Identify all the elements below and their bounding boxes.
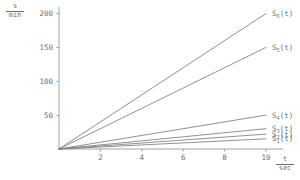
y-tick-label: 100 (39, 77, 53, 86)
y-tick-labels: 50 100 150 200 (39, 9, 53, 120)
y-tick-label: 200 (39, 9, 53, 18)
x-tick-label: 6 (181, 153, 186, 162)
series-label-s-3-t: S3(t) (272, 124, 293, 134)
y-axis-label-denominator: min (2, 12, 28, 19)
line-plot: 50 100 150 200 2 4 6 8 10 S1(t)S2(t)S3(t… (0, 0, 300, 180)
series-label-s-6-t: S6(t) (272, 9, 293, 19)
x-axis-label: t sec (272, 156, 298, 173)
y-tick-label: 150 (39, 43, 53, 52)
curve-group (59, 14, 266, 150)
series-label-s-5-t: S5(t) (272, 43, 293, 53)
x-tick-label: 2 (98, 153, 103, 162)
x-tick-label: 8 (222, 153, 227, 162)
chart-screenshot: 50 100 150 200 2 4 6 8 10 S1(t)S2(t)S3(t… (0, 0, 300, 180)
x-axis-label-denominator: sec (272, 165, 298, 172)
series-label-group: S1(t)S2(t)S3(t)S4(t)S5(t)S6(t) (272, 9, 293, 144)
series-label-s-4-t: S4(t) (272, 111, 293, 121)
y-axis-label: s min (2, 3, 28, 20)
x-tick-labels: 2 4 6 8 10 (98, 153, 271, 162)
curve-s-6-t (59, 14, 266, 150)
x-axis-label-numerator: t (272, 156, 298, 163)
x-tick-label: 10 (261, 153, 271, 162)
curve-s-2-t (59, 134, 266, 149)
curve-s-5-t (59, 47, 266, 149)
x-tick-label: 4 (140, 153, 145, 162)
y-axis-label-numerator: s (2, 3, 28, 10)
y-tick-label: 50 (44, 111, 54, 120)
